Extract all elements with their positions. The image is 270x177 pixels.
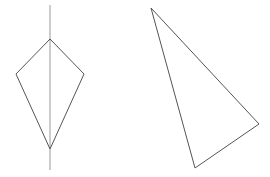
triangle-shape	[151, 8, 259, 168]
diagram-canvas	[0, 0, 270, 177]
